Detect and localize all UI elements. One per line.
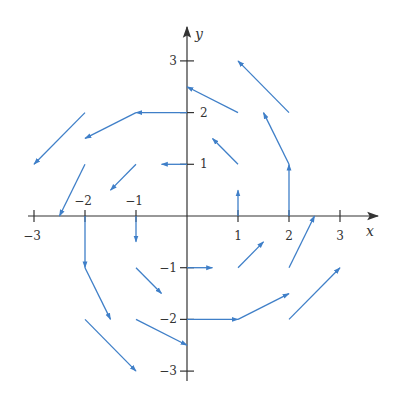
vector-arrow (136, 268, 162, 294)
y-tick-label: 1 (200, 157, 208, 171)
y-tick-label: −2 (159, 312, 177, 326)
vector-arrow (34, 113, 85, 165)
x-tick-label: 1 (234, 229, 242, 243)
x-tick-label: −3 (23, 229, 41, 243)
vector-arrow (289, 268, 340, 320)
y-tick-label: 2 (200, 106, 208, 120)
vector-arrow (264, 113, 290, 165)
y-tick-label: 3 (169, 54, 177, 68)
y-tick-label: −3 (159, 364, 177, 378)
vector-arrow (187, 87, 238, 113)
x-axis-label: x (366, 223, 374, 239)
vector-arrow (85, 319, 136, 371)
vector-arrow (238, 294, 289, 320)
x-tick-label: 3 (336, 229, 344, 243)
x-tick-label: −1 (125, 194, 143, 208)
vector-arrow (60, 164, 86, 216)
axes: −3−2−1123 321−1−2−3 x y (23, 26, 378, 381)
vector-field-plot: −3−2−1123 321−1−2−3 x y (0, 0, 402, 403)
x-ticks: −3−2−1123 (23, 194, 344, 243)
x-tick-label: 2 (285, 229, 293, 243)
y-axis-label: y (194, 26, 204, 42)
vector-arrow (238, 242, 264, 268)
vector-arrow (85, 113, 136, 139)
vector-arrow (238, 61, 289, 113)
vector-arrow (111, 164, 137, 190)
vector-arrow (213, 138, 239, 164)
vector-arrow (85, 268, 111, 320)
x-tick-label: −2 (74, 194, 92, 208)
y-tick-label: −1 (159, 261, 177, 275)
